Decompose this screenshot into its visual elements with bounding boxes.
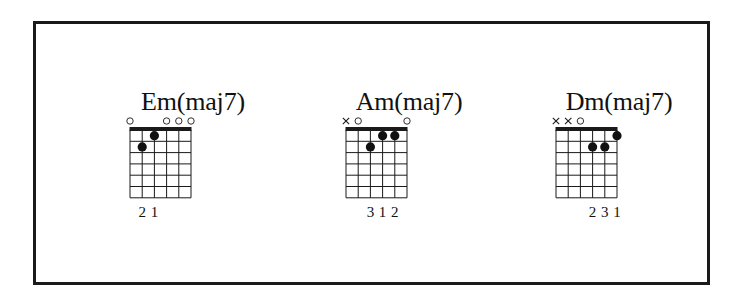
chord-diagram-dm-maj7: Dm(maj7) 231 xyxy=(519,24,719,282)
open-string-icon xyxy=(163,118,169,124)
finger-number: 3 xyxy=(367,204,375,221)
finger-number: 2 xyxy=(589,204,597,221)
open-string-icon xyxy=(188,118,194,124)
chord-diagram-am-maj7: Am(maj7) 312 xyxy=(309,24,509,282)
chord-chart-frame: Em(maj7) 21 Am(maj7) 312 Dm(maj7) 231 xyxy=(33,21,710,285)
finger-numbers: 312 xyxy=(309,204,509,224)
nut-bar xyxy=(346,127,408,131)
finger-dot xyxy=(600,142,609,151)
finger-dot xyxy=(138,142,147,151)
open-string-icon xyxy=(404,118,410,124)
nut-bar xyxy=(130,127,192,131)
finger-dot xyxy=(390,131,399,140)
finger-dot xyxy=(366,142,375,151)
finger-dot xyxy=(378,131,387,140)
finger-number: 1 xyxy=(379,204,387,221)
fretboard-grid xyxy=(93,24,293,282)
finger-number: 2 xyxy=(391,204,399,221)
fretboard-grid xyxy=(309,24,509,282)
finger-number: 1 xyxy=(151,204,159,221)
finger-number: 1 xyxy=(613,204,621,221)
open-string-icon xyxy=(577,118,583,124)
chord-diagram-em-maj7: Em(maj7) 21 xyxy=(93,24,293,282)
finger-number: 3 xyxy=(601,204,609,221)
finger-dot xyxy=(150,131,159,140)
open-string-icon xyxy=(355,118,361,124)
open-string-icon xyxy=(127,118,133,124)
open-string-icon xyxy=(176,118,182,124)
finger-numbers: 231 xyxy=(519,204,719,224)
fretboard-grid xyxy=(519,24,719,282)
finger-number: 2 xyxy=(138,204,146,221)
finger-dot xyxy=(588,142,597,151)
finger-dot xyxy=(612,131,621,140)
finger-numbers: 21 xyxy=(93,204,293,224)
nut-bar xyxy=(556,127,618,131)
